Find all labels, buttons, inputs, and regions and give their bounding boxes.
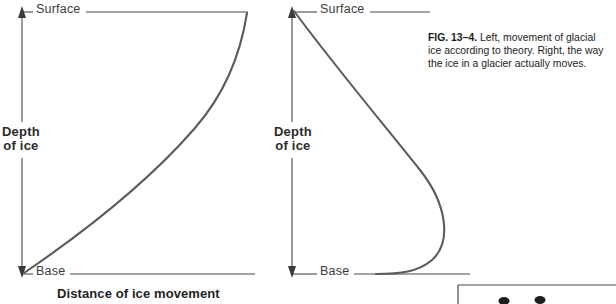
right-base-label: Base xyxy=(320,264,349,278)
figure-container: Surface Base Depth of ice Distance of ic… xyxy=(0,0,616,304)
left-diagram-group xyxy=(18,6,255,278)
right-depth-label-line1: Depth xyxy=(274,125,312,139)
right-actual-curve xyxy=(294,11,444,274)
left-base-label: Base xyxy=(36,264,65,278)
right-down-arrow-icon xyxy=(288,266,296,278)
inset-panel-partial xyxy=(458,285,616,304)
left-depth-label-line2: of ice xyxy=(2,139,40,153)
left-theory-curve xyxy=(24,13,247,273)
right-depth-label-line2: of ice xyxy=(274,139,312,153)
left-surface-label: Surface xyxy=(36,2,80,16)
inset-shape-right xyxy=(535,296,546,304)
figure-caption: FIG. 13–4. Left, movement of glacial ice… xyxy=(428,31,604,71)
x-axis-label: Distance of ice movement xyxy=(57,286,220,301)
figure-caption-number: FIG. 13–4. xyxy=(428,32,477,43)
left-depth-of-ice-label: Depth of ice xyxy=(2,125,40,153)
inset-shape-left xyxy=(499,297,510,304)
left-depth-label-line1: Depth xyxy=(2,125,40,139)
right-surface-label: Surface xyxy=(320,2,364,16)
right-depth-of-ice-label: Depth of ice xyxy=(274,125,312,153)
